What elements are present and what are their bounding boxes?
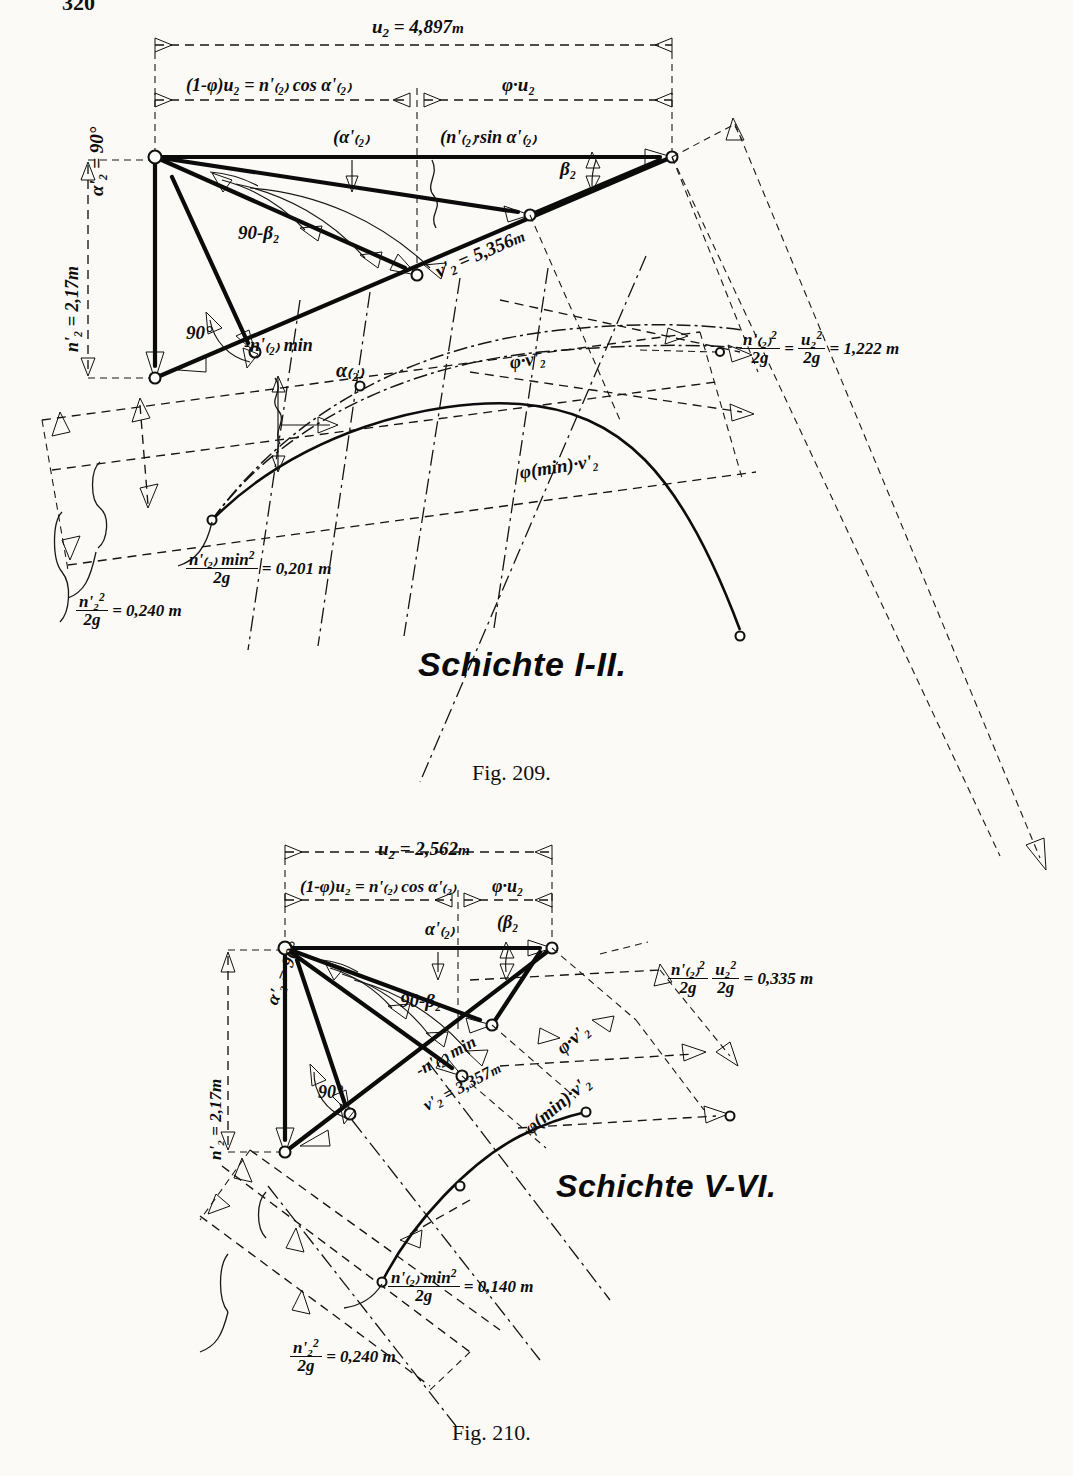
label-n2-min-209: -n'₍₂₎ min bbox=[244, 334, 313, 356]
label-head-min-209: n'₍₂₎ min22g = 0,201 m bbox=[186, 550, 331, 586]
label-90-minus-beta-209: 90-β₂ bbox=[238, 222, 280, 244]
figure-caption-209: Fig. 209. bbox=[472, 760, 551, 786]
label-90-deg-209: 90° bbox=[186, 322, 213, 344]
layer-title-209: Schichte I-II. bbox=[418, 645, 627, 684]
book-page: 320 bbox=[0, 0, 1073, 1476]
label-right-segment-210: φ·u₂ bbox=[492, 876, 523, 897]
label-head-min-210: n'₍₂₎ min22g = 0,140 m bbox=[388, 1268, 533, 1304]
label-alpha2-bracket-210: α'₍₂₎ bbox=[425, 918, 454, 940]
label-beta2-210: (β₂ bbox=[497, 912, 519, 933]
label-head-n2-209: n'₂22g = 0,240 m bbox=[76, 592, 182, 628]
label-right-segment-209: φ·u₂ bbox=[502, 74, 535, 96]
label-head-n2-210: n'₂22g = 0,240 m bbox=[290, 1338, 396, 1374]
label-alpha2-curve-209: α₍₂₎ bbox=[336, 358, 364, 382]
label-alpha-prime-90-209: α'₂ = 90° bbox=[86, 127, 108, 196]
label-u2-210: u2 = 2,562m bbox=[378, 838, 470, 863]
label-n-prime-2-height-210: n'₂ = 2,17m bbox=[206, 1079, 226, 1160]
label-head-equation-209: n'₍₂₎22g = u₂22g = 1,222 m bbox=[740, 330, 899, 366]
label-alpha2-bracket-209: (α'₍₂₎ bbox=[333, 126, 369, 148]
label-left-segment-209: (1-φ)u₂ = n'₍₂₎ cos α'₍₂₎ bbox=[186, 74, 351, 96]
label-n-prime-2-height-209: n'₂ = 2,17m bbox=[62, 266, 83, 352]
layer-title-210: Schichte V-VI. bbox=[556, 1168, 777, 1205]
label-u2-209: u2 = 4,897m bbox=[372, 16, 464, 41]
label-left-segment-210: (1-φ)u₂ = n'₍₂₎ cos α'₍₂₎ bbox=[300, 876, 456, 897]
figure-210-drawing bbox=[0, 830, 1073, 1470]
label-90-deg-210: 90° bbox=[318, 1082, 343, 1103]
label-90-minus-beta-210: 90-β₂ bbox=[400, 990, 442, 1012]
label-head-equation-210: n'₍₂₎22g u₂22g = 0,335 m bbox=[668, 960, 813, 996]
label-n-sin-alpha-209: (n'₍₂₎·sin α'₍₂₎ bbox=[440, 126, 536, 148]
figure-caption-210: Fig. 210. bbox=[452, 1420, 531, 1446]
label-beta2-209: β₂ bbox=[560, 158, 576, 180]
